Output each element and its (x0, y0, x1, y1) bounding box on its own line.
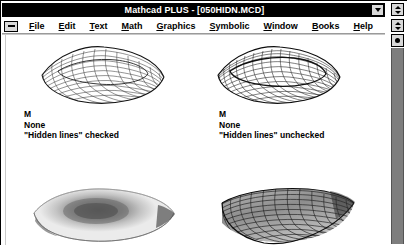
menu-label-text: ext (94, 21, 107, 31)
menu-label-window: indow (272, 21, 298, 31)
window-scroll-stepper[interactable] (391, 3, 404, 16)
menu-label-graphics: raphics (163, 21, 195, 31)
surface-lower-edge (42, 75, 164, 103)
caption-line-m: M (24, 109, 119, 120)
menu-item-file[interactable]: File (22, 19, 52, 33)
caption-top-left[interactable]: M None "Hidden lines" checked (24, 109, 119, 141)
menu-item-window[interactable]: Window (256, 19, 304, 33)
scroll-thumb-icon (395, 38, 400, 43)
menu-item-text[interactable]: Text (83, 19, 115, 33)
caption-line-state: "Hidden lines" unchecked (219, 130, 324, 141)
document-system-menu-button[interactable] (4, 21, 18, 32)
plot-top-right[interactable] (214, 45, 344, 107)
menu-item-books[interactable]: Books (305, 19, 347, 33)
vertical-scrollbar-trough[interactable] (391, 48, 404, 244)
menu-label-file: ile (35, 21, 45, 31)
vertical-scrollbar-thumb[interactable] (391, 34, 404, 47)
document-canvas[interactable]: M None "Hidden lines" checked M None "Hi… (2, 34, 385, 245)
plot-top-left[interactable] (38, 45, 168, 107)
surface-wireframe-mesh (38, 45, 168, 107)
plot-bottom-right[interactable] (212, 187, 362, 245)
title-bar[interactable]: Mathcad PLUS - [050HIDN.MCD] (2, 3, 385, 17)
surface-wireframe-mesh-dense (214, 45, 344, 107)
surface-depression-core (74, 203, 118, 219)
menu-item-help[interactable]: Help (346, 19, 380, 33)
document-system-menu-icon (8, 25, 15, 27)
window-title: Mathcad PLUS - [050HIDN.MCD] (18, 3, 371, 17)
scroll-down-icon (395, 11, 401, 14)
plot-bottom-left[interactable] (30, 187, 180, 245)
scroll-up-icon (395, 6, 401, 9)
caption-line-state: "Hidden lines" checked (24, 130, 119, 141)
menu-item-graphics[interactable]: Graphics (149, 19, 202, 33)
minimize-icon (375, 8, 381, 12)
menu-label-symbolic: ymbolic (215, 21, 249, 31)
menu-bar: File Edit Text Math Graphics Symbolic Wi… (2, 19, 385, 34)
menu-item-symbolic[interactable]: Symbolic (202, 19, 256, 33)
menu-label-books: ooks (318, 21, 339, 31)
caption-top-right[interactable]: M None "Hidden lines" unchecked (219, 109, 324, 141)
caption-line-none: None (24, 120, 119, 131)
menu-label-edit: dit (65, 21, 76, 31)
caption-line-m: M (219, 109, 324, 120)
mathcad-application-window: Mathcad PLUS - [050HIDN.MCD] File Edit T… (0, 0, 407, 245)
menu-label-math: ath (129, 21, 143, 31)
menu-item-math[interactable]: Math (114, 19, 149, 33)
scroll-down-icon (395, 27, 401, 30)
surface-filled-mesh (212, 187, 362, 245)
scroll-up-icon (395, 22, 401, 25)
menu-label-help: elp (360, 21, 373, 31)
menu-item-edit[interactable]: Edit (52, 19, 83, 33)
caption-line-none: None (219, 120, 324, 131)
document-left-margin-rule (5, 35, 6, 245)
scrollbar-column (385, 1, 407, 245)
document-scroll-stepper[interactable] (391, 19, 404, 32)
minimize-button[interactable] (371, 4, 384, 16)
surface-filled-shaded (30, 187, 180, 245)
